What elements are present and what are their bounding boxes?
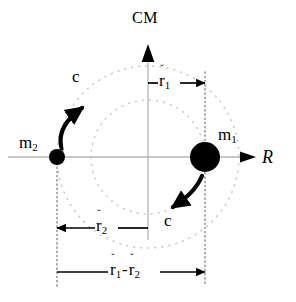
label-center-of-mass: CM bbox=[132, 10, 158, 26]
physics-diagram-two-body-center-of-mass: CM R m1 m2 c c ˇr1 ˇr2 ˇr1-ˇr2 bbox=[0, 0, 296, 302]
mass-m1-body bbox=[190, 142, 220, 172]
separation-r1-subscript: 1 bbox=[116, 268, 121, 280]
label-speed-c-lower: c bbox=[164, 212, 172, 229]
label-speed-c-upper: c bbox=[72, 68, 80, 85]
separation-r2-subscript: 2 bbox=[134, 268, 139, 280]
label-mass-m2-subscript: 2 bbox=[32, 141, 38, 153]
vector-r2-glyph: ˇr2 bbox=[96, 217, 107, 236]
label-mass-m2-symbol: m bbox=[19, 133, 32, 152]
vector-r2-accent: ˇ bbox=[97, 209, 101, 220]
axis-horizontal-arrowhead bbox=[240, 151, 256, 162]
mass-m2-body bbox=[49, 149, 65, 165]
separation-r2-accent: ˇ bbox=[130, 253, 134, 264]
label-axis-r: R bbox=[262, 148, 273, 166]
separation-r1-glyph: ˇr1 bbox=[110, 261, 121, 280]
label-vector-separation: ˇr1-ˇr2 bbox=[110, 261, 140, 280]
vector-r1-accent: ˇ bbox=[160, 64, 164, 75]
vector-r1-glyph: ˇr1 bbox=[159, 72, 170, 91]
velocity-arrow-upper-c bbox=[60, 108, 82, 146]
separation-minus-operator: - bbox=[121, 260, 129, 279]
label-mass-m1-subscript: 1 bbox=[231, 133, 237, 145]
label-mass-m2: m2 bbox=[19, 134, 38, 153]
label-mass-m1-symbol: m bbox=[218, 125, 231, 144]
label-vector-r2: ˇr2 bbox=[96, 217, 107, 236]
label-vector-r1: ˇr1 bbox=[159, 72, 170, 91]
separation-r2-glyph: ˇr2 bbox=[129, 261, 140, 280]
velocity-arrow-upper-tail-cap bbox=[59, 144, 63, 151]
label-mass-m1: m1 bbox=[218, 126, 237, 145]
vector-r2-subscript: 2 bbox=[102, 224, 107, 236]
separation-r1-accent: ˇ bbox=[111, 253, 115, 264]
vector-r1-subscript: 1 bbox=[165, 79, 170, 91]
axis-vertical-arrowhead bbox=[142, 44, 155, 62]
diagram-canvas bbox=[0, 0, 296, 302]
velocity-arrow-lower-c bbox=[173, 176, 202, 207]
